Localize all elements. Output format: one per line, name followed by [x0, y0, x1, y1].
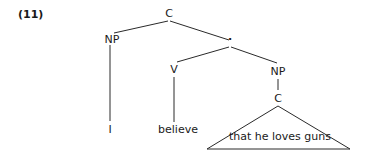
- node-embedded-c: C: [274, 93, 282, 105]
- leaf-verb: believe: [158, 124, 198, 136]
- node-verb: V: [170, 64, 178, 76]
- leaf-clause: that he loves guns: [229, 131, 331, 143]
- node-root-c: C: [165, 8, 173, 20]
- branch-root-to-intermediate: [170, 21, 229, 40]
- syntax-tree-diagram: (11) C NP · V NP C I believe that he lov…: [0, 0, 369, 157]
- leaf-subject: I: [108, 124, 111, 136]
- node-object-np: NP: [271, 66, 286, 78]
- node-subject-np: NP: [105, 34, 120, 46]
- branch-root-to-subject-np: [114, 21, 168, 33]
- node-intermediate: ·: [228, 34, 232, 46]
- branch-intermediate-to-v: [177, 47, 229, 62]
- branch-intermediate-to-object-np: [231, 47, 277, 63]
